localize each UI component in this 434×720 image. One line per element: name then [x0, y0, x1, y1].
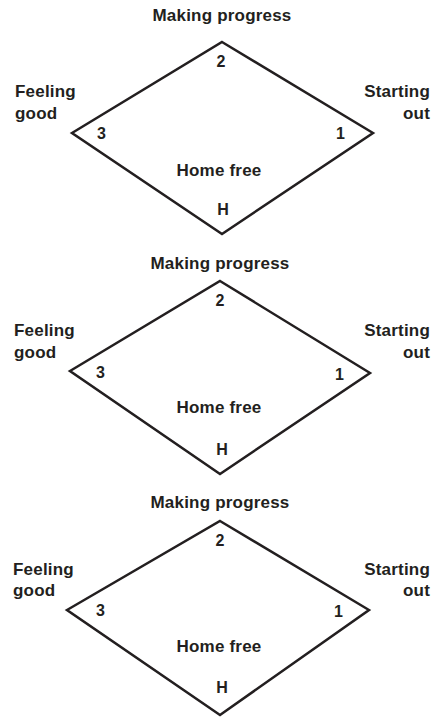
vertex-left-number: 3: [96, 364, 105, 382]
left-label-line1: Feeling: [15, 82, 76, 102]
right-label-line2: out: [403, 581, 430, 601]
center-label: Home free: [177, 398, 262, 418]
left-label-line2: good: [15, 104, 57, 124]
vertex-top-number: 2: [216, 292, 225, 310]
left-label-line2: good: [13, 581, 55, 601]
vertex-right-number: 1: [334, 603, 343, 621]
diamond-diagram-3: Making progress Feeling good Starting ou…: [0, 480, 434, 702]
center-label: Home free: [177, 161, 262, 181]
vertex-top-number: 2: [217, 53, 226, 71]
left-label-line1: Feeling: [14, 321, 75, 341]
left-label-line2: good: [14, 343, 56, 363]
vertex-left-number: 3: [96, 602, 105, 620]
left-label-line1: Feeling: [13, 560, 74, 580]
right-label-line2: out: [403, 104, 430, 124]
center-label: Home free: [177, 637, 262, 657]
top-label: Making progress: [150, 493, 289, 513]
vertex-left-number: 3: [97, 125, 106, 143]
vertex-top-number: 2: [216, 532, 225, 550]
right-label-line1: Starting: [364, 560, 430, 580]
vertex-bottom-label: H: [216, 679, 228, 697]
vertex-bottom-label: H: [217, 201, 229, 219]
vertex-bottom-label: H: [216, 441, 228, 459]
right-label-line1: Starting: [364, 321, 430, 341]
right-label-line2: out: [403, 343, 430, 363]
vertex-right-number: 1: [336, 125, 345, 143]
vertex-right-number: 1: [335, 366, 344, 384]
right-label-line1: Starting: [364, 82, 430, 102]
top-label: Making progress: [152, 6, 291, 26]
top-label: Making progress: [150, 254, 289, 274]
diamond-diagram-2: Making progress Feeling good Starting ou…: [0, 240, 434, 480]
diamond-diagram-1: Making progress Feeling good Starting ou…: [0, 0, 434, 240]
